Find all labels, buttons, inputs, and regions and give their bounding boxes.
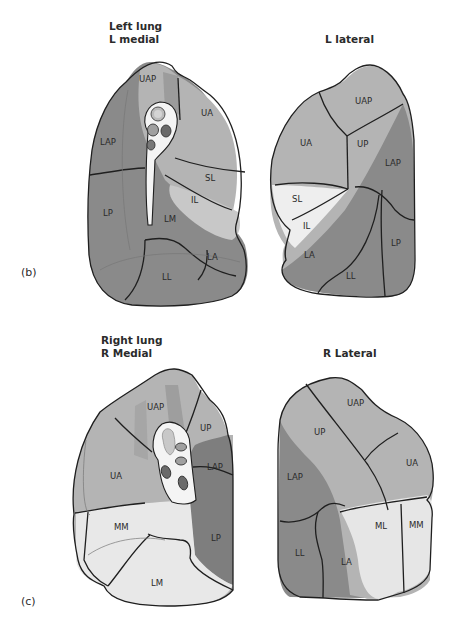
label-lap: LAP [207,462,223,472]
label-la: LA [341,557,352,567]
right-medial-lung: UAP UP UA LAP MM LP LM [73,369,233,606]
label-ml: ML [375,521,387,531]
label-uap: UAP [139,74,156,84]
label-lm: LM [151,578,163,588]
label-ua: UA [406,458,418,468]
label-il: IL [191,195,199,205]
label-lm: LM [164,214,176,224]
label-uap: UAP [147,402,164,412]
label-lap: LAP [385,158,401,168]
label-sl: SL [292,194,302,204]
label-lap: LAP [287,472,303,482]
label-uap: UAP [347,398,364,408]
lung-segments-diagram: UAP UA LAP SL IL LP LM LA LL UAP UA UP L… [0,0,465,626]
label-ua: UA [201,108,213,118]
label-il: IL [303,221,311,231]
label-ua: UA [110,471,122,481]
label-ll: LL [295,548,305,558]
label-mm: MM [409,520,424,530]
label-ll: LL [346,271,356,281]
label-ll: LL [162,272,172,282]
label-ua: UA [300,138,312,148]
label-up: UP [314,427,325,437]
label-lap: LAP [100,137,116,147]
label-la: LA [207,252,218,262]
label-up: UP [200,423,211,433]
label-la: LA [304,250,315,260]
left-medial-lung: UAP UA LAP SL IL LP LM LA LL [88,62,248,306]
label-mm: MM [114,522,129,532]
label-lp: LP [391,238,401,248]
label-up: UP [357,139,368,149]
label-lp: LP [211,533,221,543]
label-uap: UAP [355,96,372,106]
label-sl: SL [205,173,215,183]
label-lp: LP [103,208,113,218]
right-lateral-lung: UAP UP UA LAP ML MM LL LA [278,378,433,600]
left-lateral-lung: UAP UA UP LAP SL IL LP LA LL [270,65,415,297]
